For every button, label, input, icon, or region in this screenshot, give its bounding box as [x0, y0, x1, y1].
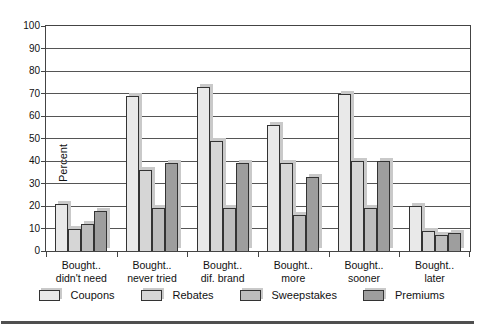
bar-sweepstakes-2	[152, 208, 165, 251]
bar-coupons-4	[267, 125, 280, 251]
y-tick-label-80: 80	[4, 65, 40, 76]
bar-coupons-5	[338, 94, 351, 252]
bar-premiums-4	[306, 177, 319, 251]
legend-label-coupons: Coupons	[71, 289, 115, 301]
x-tick-4	[329, 252, 330, 257]
plot-area: Percent 0102030405060708090100 Bought..d…	[45, 25, 471, 252]
legend-item-sweepstakes: Sweepstakes	[240, 289, 337, 301]
y-tick-label-50: 50	[4, 133, 40, 144]
x-tick-5	[399, 252, 400, 257]
category-group-4: Bought..more	[258, 26, 329, 251]
bar-premiums-1	[94, 211, 107, 252]
bar-premiums-3	[236, 163, 249, 251]
bar-rebates-1	[68, 229, 81, 252]
y-tick-label-40: 40	[4, 155, 40, 166]
x-tick-0	[46, 252, 47, 257]
legend-swatch-coupons	[39, 290, 60, 301]
y-tick-label-10: 10	[4, 223, 40, 234]
x-tick-3	[258, 252, 259, 257]
legend-label-premiums: Premiums	[395, 289, 445, 301]
legend-swatch-rebates	[141, 290, 162, 301]
bar-rebates-3	[210, 141, 223, 251]
bar-sweepstakes-1	[81, 224, 94, 251]
y-tick-label-60: 60	[4, 110, 40, 121]
bar-coupons-6	[409, 206, 422, 251]
y-tick-label-90: 90	[4, 43, 40, 54]
bar-rebates-6	[422, 231, 435, 251]
y-tick-label-100: 100	[4, 20, 40, 31]
legend-label-rebates: Rebates	[173, 289, 214, 301]
bar-premiums-6	[448, 233, 461, 251]
bar-rebates-5	[351, 161, 364, 251]
bar-sweepstakes-4	[293, 215, 306, 251]
x-tick-2	[187, 252, 188, 257]
x-tick-6	[469, 252, 470, 257]
bottom-divider	[1, 321, 474, 324]
category-group-5: Bought..sooner	[329, 26, 400, 251]
bar-sweepstakes-5	[364, 208, 377, 251]
bar-rebates-4	[280, 163, 293, 251]
category-group-1: Bought..didn't need	[46, 26, 117, 251]
legend-item-rebates: Rebates	[141, 289, 214, 301]
legend-swatch-premiums	[363, 290, 384, 301]
category-label-6: Bought..later	[393, 259, 476, 285]
category-group-6: Bought..later	[399, 26, 470, 251]
y-tick-label-0: 0	[4, 245, 40, 256]
legend-label-sweepstakes: Sweepstakes	[272, 289, 337, 301]
x-tick-1	[117, 252, 118, 257]
category-group-2: Bought..never tried	[117, 26, 188, 251]
bar-premiums-2	[165, 163, 178, 251]
legend-swatch-sweepstakes	[240, 290, 261, 301]
legend-item-coupons: Coupons	[39, 289, 115, 301]
y-tick-label-30: 30	[4, 178, 40, 189]
bar-sweepstakes-3	[223, 208, 236, 251]
bar-coupons-2	[126, 96, 139, 251]
bar-premiums-5	[377, 161, 390, 251]
category-group-3: Bought..dif. brand	[187, 26, 258, 251]
bar-rebates-2	[139, 170, 152, 251]
bar-coupons-1	[55, 204, 68, 251]
bar-sweepstakes-6	[435, 235, 448, 251]
bar-coupons-3	[197, 87, 210, 251]
legend-item-premiums: Premiums	[363, 289, 445, 301]
legend: CouponsRebatesSweepstakesPremiums	[0, 289, 483, 301]
y-tick-label-70: 70	[4, 88, 40, 99]
y-tick-label-20: 20	[4, 200, 40, 211]
bar-chart-figure: Percent 0102030405060708090100 Bought..d…	[0, 0, 483, 336]
